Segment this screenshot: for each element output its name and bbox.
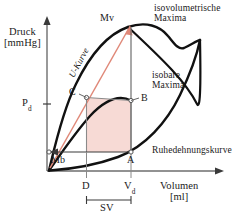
- x-axis-arrowhead: [215, 167, 224, 174]
- annotation-isovolumetric-maxima: isovolumetrische Maxima: [154, 3, 221, 23]
- y-axis-title-line1: Druck: [4, 26, 41, 37]
- y-tick-label-pd: Pd: [22, 97, 32, 111]
- x-tick-label-vd: Vd: [124, 180, 135, 194]
- x-axis-title-line1: Volumen: [160, 180, 198, 191]
- x-axis-title: Volumen [ml]: [160, 180, 198, 202]
- y-axis-title-line2: [mmHg]: [4, 37, 41, 48]
- annotation-isobaric-line1: isobare: [152, 70, 184, 80]
- x-tick-label-d-base: D: [82, 180, 90, 191]
- point-label-mb: Mb: [51, 155, 65, 166]
- point-label-b: B: [141, 93, 148, 104]
- x-tick-label-vd-subscript: d: [132, 187, 136, 196]
- work-loop-fill: [87, 98, 132, 153]
- x-tick-label-d: D: [82, 180, 90, 191]
- pv-diagram-figure: Druck [mmHg] Pd Volumen [ml] D Vd SV iso…: [0, 0, 239, 222]
- sv-label: SV: [100, 202, 114, 213]
- annotation-ruhedehnungskurve: Ruhedehnungskurve: [152, 145, 232, 155]
- x-tick-label-vd-base: V: [124, 180, 132, 191]
- y-axis-arrowhead: [43, 16, 50, 25]
- y-axis-title: Druck [mmHg]: [4, 26, 41, 48]
- annotation-isobaric-line2: Maxima: [152, 80, 184, 90]
- point-label-mv: Mv: [100, 13, 114, 24]
- annotation-isovolumetric-line1: isovolumetrische: [154, 3, 221, 13]
- point-label-c: C: [69, 87, 76, 98]
- annotation-isobaric-maxima: isobare Maxima: [152, 70, 184, 90]
- point-label-a: A: [127, 155, 134, 166]
- annotation-isovolumetric-line2: Maxima: [154, 13, 221, 23]
- isobaric-maxima-curve: [128, 27, 200, 105]
- x-axis-title-line2: [ml]: [160, 191, 198, 202]
- y-tick-label-pd-subscript: d: [28, 104, 32, 113]
